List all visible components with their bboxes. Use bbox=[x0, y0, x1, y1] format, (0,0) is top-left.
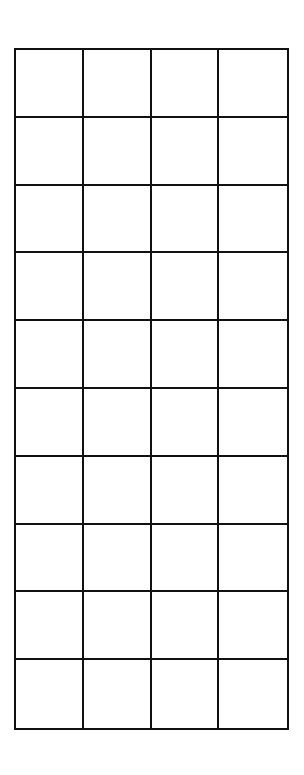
grid-cell bbox=[16, 186, 84, 254]
grid-cell bbox=[219, 592, 287, 660]
grid-cell bbox=[84, 186, 152, 254]
grid-cell bbox=[84, 389, 152, 457]
grid-cell bbox=[219, 457, 287, 525]
grid-cell bbox=[16, 525, 84, 593]
grid-cell bbox=[152, 253, 220, 321]
empty-grid-table bbox=[14, 48, 289, 730]
grid-cell bbox=[16, 50, 84, 118]
grid-cell bbox=[84, 253, 152, 321]
grid-cell bbox=[84, 592, 152, 660]
grid-cell bbox=[152, 50, 220, 118]
grid-cell bbox=[16, 592, 84, 660]
grid-cell bbox=[219, 525, 287, 593]
grid-cell bbox=[16, 253, 84, 321]
grid-cell bbox=[219, 389, 287, 457]
grid-cell bbox=[152, 186, 220, 254]
grid-cell bbox=[219, 50, 287, 118]
grid-cell bbox=[84, 525, 152, 593]
grid-cell bbox=[219, 660, 287, 728]
grid-cell bbox=[152, 321, 220, 389]
grid-cell bbox=[16, 118, 84, 186]
grid-cell bbox=[16, 457, 84, 525]
grid-cell bbox=[152, 118, 220, 186]
page bbox=[0, 0, 304, 775]
grid-cell bbox=[219, 253, 287, 321]
grid-cell bbox=[152, 389, 220, 457]
grid-cell bbox=[219, 118, 287, 186]
grid-cell bbox=[152, 457, 220, 525]
grid-cell bbox=[152, 660, 220, 728]
grid-cell bbox=[84, 321, 152, 389]
grid-cell bbox=[219, 186, 287, 254]
grid-cell bbox=[84, 457, 152, 525]
grid-cell bbox=[84, 660, 152, 728]
grid-cell bbox=[84, 118, 152, 186]
grid-cell bbox=[16, 321, 84, 389]
grid-cell bbox=[16, 660, 84, 728]
grid-cell bbox=[152, 592, 220, 660]
grid-cell bbox=[219, 321, 287, 389]
grid-cell bbox=[152, 525, 220, 593]
grid-cell bbox=[16, 389, 84, 457]
grid-cell bbox=[84, 50, 152, 118]
